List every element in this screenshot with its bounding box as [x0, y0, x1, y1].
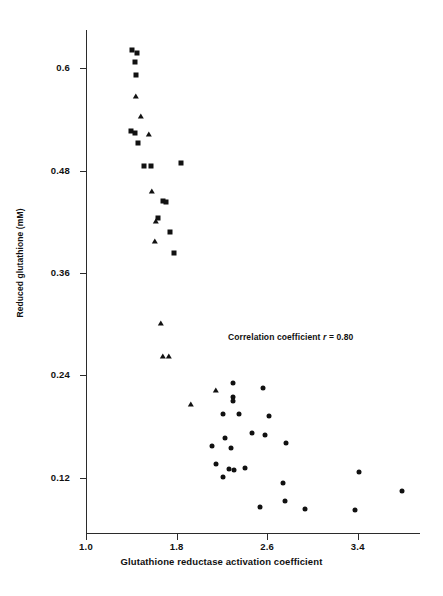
data-point-circle [226, 467, 231, 472]
x-axis-tick-label: 3.4 [351, 541, 365, 552]
data-point-circle [399, 489, 404, 494]
data-point-square [133, 73, 138, 78]
annotation-value: = 0.80 [329, 332, 353, 342]
data-point-square [141, 163, 146, 168]
data-point-triangle [146, 131, 152, 136]
data-point-triangle [165, 353, 171, 358]
annotation-variable: r [323, 332, 326, 342]
x-axis-tick [358, 534, 359, 540]
data-point-square [148, 163, 153, 168]
data-point-circle [262, 432, 267, 437]
correlation-coefficient-annotation: Correlation coefficient r = 0.80 [228, 332, 353, 342]
data-point-circle [228, 445, 233, 450]
data-point-circle [302, 507, 307, 512]
data-point-square [179, 160, 184, 165]
x-axis-tick [177, 534, 178, 540]
annotation-prefix: Correlation coefficient [228, 332, 321, 342]
data-point-circle [220, 474, 225, 479]
x-axis-tick-label: 2.6 [260, 541, 274, 552]
data-point-circle [260, 386, 265, 391]
data-point-circle [284, 441, 289, 446]
plot-area [86, 30, 420, 533]
data-point-square [136, 140, 141, 145]
y-axis-tick-label: 0.36 [28, 267, 70, 278]
y-axis-tick-label: 0.6 [28, 62, 70, 73]
x-axis-title: Glutathione reductase activation coeffic… [0, 556, 443, 567]
y-axis-tick-label: 0.48 [28, 165, 70, 176]
data-point-triangle [152, 239, 158, 244]
data-point-triangle [148, 189, 154, 194]
data-point-circle [231, 380, 236, 385]
data-point-triangle [158, 321, 164, 326]
data-point-circle [231, 398, 236, 403]
data-point-circle [223, 436, 228, 441]
data-point-circle [232, 467, 237, 472]
data-point-circle [214, 461, 219, 466]
data-point-square [134, 51, 139, 56]
data-point-circle [209, 444, 214, 449]
data-point-square [164, 200, 169, 205]
x-axis-tick [86, 534, 87, 540]
y-axis-tick-label: 0.24 [28, 369, 70, 380]
data-point-square [132, 131, 137, 136]
data-point-circle [258, 504, 263, 509]
y-axis-title: Reduced glutathione (mM) [15, 163, 25, 363]
data-point-triangle [138, 114, 144, 119]
data-point-square [172, 250, 177, 255]
data-point-triangle [188, 402, 194, 407]
data-point-square [167, 230, 172, 235]
scatter-plot-figure: 0.120.240.360.480.6 1.01.82.63.4 Reduced… [0, 0, 443, 596]
x-axis-tick-label: 1.0 [79, 541, 93, 552]
data-point-circle [356, 469, 361, 474]
data-point-circle [281, 480, 286, 485]
data-point-circle [236, 412, 241, 417]
data-point-circle [267, 414, 272, 419]
data-point-circle [220, 412, 225, 417]
data-point-square [132, 60, 137, 65]
data-point-triangle [133, 94, 139, 99]
x-axis-line [86, 533, 420, 534]
y-axis-tick-label: 0.12 [28, 472, 70, 483]
data-point-circle [242, 466, 247, 471]
data-point-triangle [153, 218, 159, 223]
data-point-circle [250, 431, 255, 436]
data-point-circle [283, 499, 288, 504]
x-axis-tick [267, 534, 268, 540]
data-point-triangle [213, 387, 219, 392]
x-axis-tick-label: 1.8 [170, 541, 184, 552]
data-point-circle [353, 507, 358, 512]
